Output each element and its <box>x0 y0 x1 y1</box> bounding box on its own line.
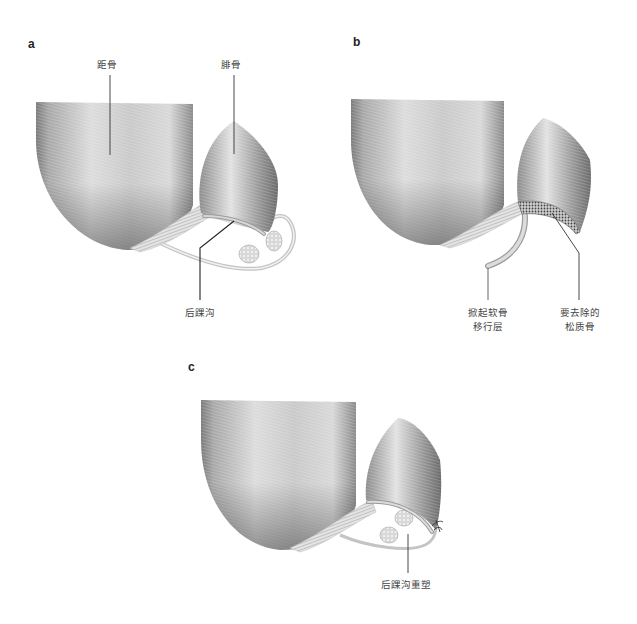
label-groove: 后踝沟 <box>185 306 215 320</box>
label-cancellous-bone: 要去除的 松质骨 <box>560 306 600 334</box>
panel-c <box>195 394 443 573</box>
label-cancellous-bone-line2: 松质骨 <box>560 320 600 334</box>
tendon <box>266 231 282 251</box>
label-reshaped-groove: 后踝沟重塑 <box>381 578 431 592</box>
label-cartilage-flap-line2: 移行层 <box>468 320 508 334</box>
panel-letter-c: c <box>188 360 195 374</box>
tendon <box>239 245 259 263</box>
panel-letter-a: a <box>28 37 35 51</box>
label-cartilage-flap-line1: 掀起软骨 <box>468 306 508 320</box>
label-fibula: 腓骨 <box>221 58 241 72</box>
label-cartilage-flap: 掀起软骨 移行层 <box>468 306 508 334</box>
panel-letter-b: b <box>353 35 360 49</box>
figure-canvas <box>0 0 637 624</box>
label-cancellous-bone-line1: 要去除的 <box>560 306 600 320</box>
panel-b <box>345 93 591 300</box>
label-talus: 距骨 <box>97 58 117 72</box>
tendon <box>380 527 398 543</box>
panel-a <box>30 75 294 300</box>
